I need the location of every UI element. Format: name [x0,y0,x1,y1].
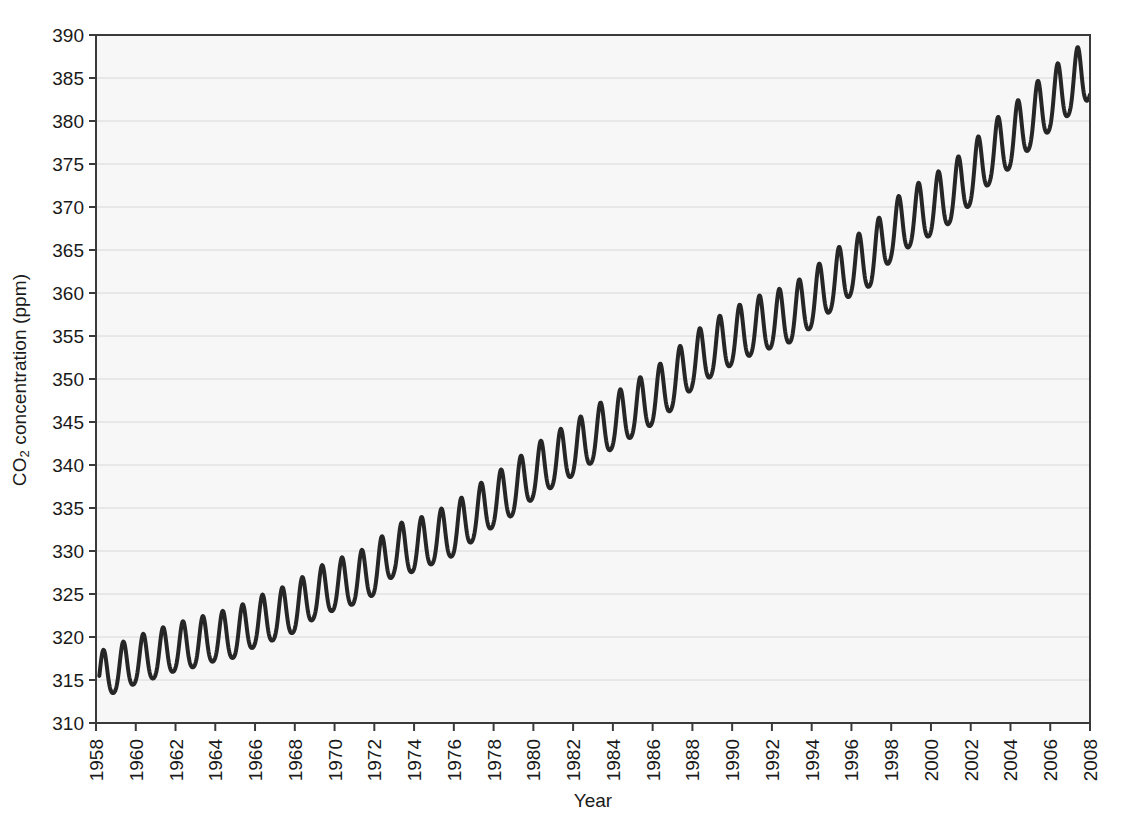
x-tick-label: 1974 [404,739,425,782]
x-tick-label: 1964 [205,739,226,782]
y-tick-label: 315 [52,670,84,691]
y-tick-label: 330 [52,541,84,562]
x-tick-label: 1988 [682,739,703,781]
y-tick-label: 365 [52,240,84,261]
x-tick-label: 2000 [921,739,942,781]
x-tick-label: 1968 [285,739,306,781]
x-tick-label: 2006 [1040,739,1061,781]
y-tick-label: 385 [52,68,84,89]
x-tick-label: 1960 [126,739,147,781]
x-tick-label: 1970 [325,739,346,781]
x-tick-label: 1992 [762,739,783,781]
y-tick-label: 360 [52,283,84,304]
y-tick-label: 355 [52,326,84,347]
x-tick-label: 1996 [841,739,862,781]
x-tick-label: 2004 [1000,739,1021,782]
x-tick-label: 1994 [802,739,823,782]
y-tick-label: 350 [52,369,84,390]
x-tick-label: 1986 [643,739,664,781]
y-tick-label: 340 [52,455,84,476]
y-tick-label: 375 [52,154,84,175]
plot-area: 3103153203253303353403453503553603653703… [0,0,1130,839]
x-tick-label: 1980 [523,739,544,781]
x-tick-label: 1976 [444,739,465,781]
y-tick-label: 390 [52,25,84,46]
x-tick-label: 2002 [961,739,982,781]
y-tick-label: 380 [52,111,84,132]
y-tick-label: 320 [52,627,84,648]
y-tick-label: 345 [52,412,84,433]
y-tick-label: 310 [52,713,84,734]
x-tick-label: 1966 [245,739,266,781]
x-tick-label: 1984 [603,739,624,782]
y-tick-label: 335 [52,498,84,519]
x-tick-label: 1972 [364,739,385,781]
x-tick-label: 2008 [1080,739,1101,781]
co2-keeling-curve-figure: CO2 concentration (ppm) 3103153203253303… [0,0,1130,839]
x-tick-label: 1958 [86,739,107,781]
x-tick-label: 1982 [563,739,584,781]
x-tick-label: 1978 [484,739,505,781]
y-tick-label: 370 [52,197,84,218]
x-axis-title: Year [96,790,1090,812]
x-tick-label: 1962 [166,739,187,781]
y-tick-label: 325 [52,584,84,605]
x-tick-label: 1990 [722,739,743,781]
x-tick-label: 1998 [881,739,902,781]
